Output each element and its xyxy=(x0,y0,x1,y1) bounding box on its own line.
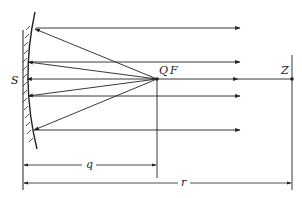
incident-rays xyxy=(27,29,157,130)
label-q-point: Q xyxy=(159,64,168,77)
label-f-point: F xyxy=(169,64,178,77)
focus-point xyxy=(155,77,159,81)
curved-mirror xyxy=(28,12,37,149)
label-r-dimension: r xyxy=(181,176,187,189)
mirror-ray-diagram: S Q F Z q r xyxy=(0,0,302,198)
z-point xyxy=(290,77,294,81)
label-q-dimension: q xyxy=(86,158,93,171)
label-z: Z xyxy=(280,64,289,77)
label-s: S xyxy=(11,74,19,87)
